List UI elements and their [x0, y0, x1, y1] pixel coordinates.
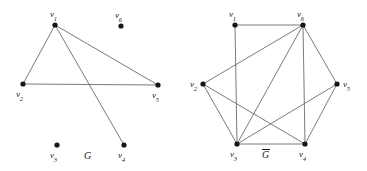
vertex-label-Gbar-v3: v3	[230, 150, 237, 161]
graph-edge-G-v2-v5	[23, 84, 158, 85]
graph-canvas	[0, 0, 367, 171]
graph-vertex-G-v3	[54, 142, 59, 147]
graph-vertex-G-v2	[20, 81, 25, 86]
vertex-label-Gbar-v2: v2	[190, 80, 197, 91]
graph-figure: v1v2v3v4v5v6Gv1v2v3v4v5v6G	[0, 0, 367, 171]
graph-edge-Gbar-v3-v5	[237, 84, 337, 144]
vertex-label-G-v2: v2	[16, 90, 23, 101]
graph-vertex-G-v5	[155, 82, 160, 87]
graph-vertex-Gbar-v4	[302, 141, 307, 146]
vertex-label-G-v4: v4	[118, 151, 125, 162]
graph-vertex-Gbar-v2	[200, 81, 205, 86]
graph-edge-Gbar-v1-v3	[235, 25, 237, 144]
graph-vertex-Gbar-v6	[300, 22, 305, 27]
edges-layer	[23, 25, 337, 145]
vertex-label-Gbar-v6: v6	[297, 10, 304, 21]
graph-edge-G-v1-v2	[23, 25, 55, 84]
graph-vertex-Gbar-v1	[232, 22, 237, 27]
graph-edge-Gbar-v2-v3	[203, 84, 237, 144]
vertices-layer	[20, 22, 339, 147]
graph-edge-Gbar-v2-v6	[203, 25, 303, 84]
graph-vertex-Gbar-v3	[234, 141, 239, 146]
graph-vertex-G-v4	[121, 142, 126, 147]
vertex-label-G-v3: v3	[50, 151, 57, 162]
vertex-label-G-v1: v1	[50, 10, 57, 21]
graph-edge-G-v1-v5	[55, 25, 158, 85]
graph-caption-G: G	[84, 151, 91, 161]
graph-edge-Gbar-v3-v6	[237, 25, 303, 144]
vertex-label-Gbar-v1: v1	[229, 10, 236, 21]
vertex-label-G-v5: v5	[152, 91, 159, 102]
graph-edge-Gbar-v4-v5	[305, 84, 337, 144]
vertex-label-Gbar-v4: v4	[299, 150, 306, 161]
graph-edge-Gbar-v5-v6	[303, 25, 337, 84]
graph-vertex-G-v1	[52, 22, 57, 27]
graph-edge-Gbar-v4-v6	[303, 25, 305, 144]
graph-vertex-Gbar-v5	[334, 81, 339, 86]
graph-caption-Gbar: G	[262, 150, 269, 160]
vertex-label-Gbar-v5: v5	[343, 80, 350, 91]
graph-vertex-G-v6	[118, 23, 123, 28]
vertex-label-G-v6: v6	[115, 11, 122, 22]
